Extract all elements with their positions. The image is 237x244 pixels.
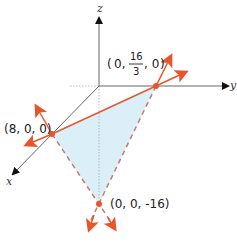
z-axis-label: z — [96, 2, 103, 15]
plane-region — [52, 86, 156, 204]
label-suffix: , 0 — [144, 57, 159, 71]
label-z-intercept: (0, 0, -16) — [110, 197, 170, 211]
label-x-intercept: (8, 0, 0) — [4, 122, 52, 136]
point-y-intercept — [153, 83, 159, 89]
frac-numerator: 16 — [130, 51, 143, 62]
y-axis-label: y — [229, 79, 237, 92]
label-y-intercept: ( 0, 16 3 , 0 ) — [107, 51, 165, 77]
trace-arrow-right — [156, 72, 186, 86]
paren-close: ) — [160, 57, 165, 71]
label-prefix: 0, — [114, 57, 125, 71]
frac-denominator: 3 — [133, 66, 139, 77]
paren-open: ( — [107, 57, 112, 71]
plane-intercepts-diagram: z y x ( 0, 16 3 , 0 ) (8, 0, 0) (0, 0, -… — [0, 0, 237, 244]
x-axis-label: x — [6, 175, 13, 188]
xz-arrow-down — [108, 218, 115, 229]
point-z-intercept — [96, 201, 102, 207]
